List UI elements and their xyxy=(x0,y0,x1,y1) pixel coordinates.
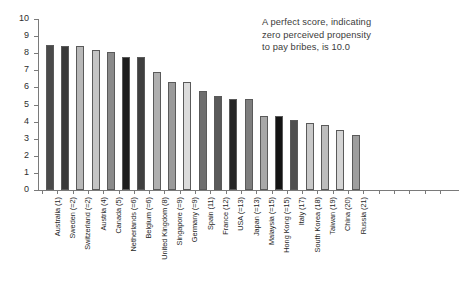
bar xyxy=(137,57,145,190)
y-tick: 4 xyxy=(34,122,38,123)
x-category-label: Canada (5) xyxy=(114,197,123,233)
x-tick xyxy=(317,190,318,194)
x-tick xyxy=(164,190,165,194)
bar xyxy=(183,82,191,190)
bribe-payers-index-chart: A perfect score, indicating zero perceiv… xyxy=(0,0,472,291)
x-category-label: Malaysia (=15) xyxy=(267,197,276,245)
y-tick-label: 3 xyxy=(24,133,29,143)
x-category-label: Austria (4) xyxy=(99,197,108,231)
y-tick-label: 9 xyxy=(24,30,29,40)
x-tick xyxy=(134,190,135,194)
x-category-label: South Korea (18) xyxy=(313,197,322,253)
x-tick xyxy=(440,190,441,194)
y-tick-label: 6 xyxy=(24,81,29,91)
x-category-label: Sweden (=2) xyxy=(68,197,77,239)
bar xyxy=(76,46,84,190)
y-tick-label: 7 xyxy=(24,64,29,74)
y-tick-label: 0 xyxy=(24,184,29,194)
bar xyxy=(153,72,161,190)
bar xyxy=(46,45,54,190)
x-tick xyxy=(180,190,181,194)
x-tick xyxy=(409,190,410,194)
x-axis-line xyxy=(38,190,459,191)
x-category-label: Netherlands (=6) xyxy=(129,197,138,251)
y-tick-label: 1 xyxy=(24,167,29,177)
bar xyxy=(214,96,222,190)
bar xyxy=(352,135,360,190)
y-axis-line xyxy=(38,19,39,190)
x-category-label: Italy (17) xyxy=(297,197,306,225)
bar xyxy=(199,91,207,190)
x-tick xyxy=(42,190,43,194)
x-tick xyxy=(379,190,380,194)
x-category-label: Japan (=13) xyxy=(252,197,261,236)
x-category-label: Belgium (=6) xyxy=(144,197,153,239)
x-tick xyxy=(363,190,364,194)
bar xyxy=(92,50,100,190)
x-tick xyxy=(119,190,120,194)
x-tick xyxy=(256,190,257,194)
x-tick xyxy=(287,190,288,194)
x-category-label: Taiwan (19) xyxy=(328,197,337,235)
x-category-label: Russia (21) xyxy=(359,197,368,234)
x-tick xyxy=(333,190,334,194)
y-tick-label: 8 xyxy=(24,47,29,57)
x-tick xyxy=(302,190,303,194)
bar xyxy=(229,99,237,190)
plot-area: 012345678910 Australia (1)Sweden (=2)Swi… xyxy=(38,19,462,190)
x-tick xyxy=(103,190,104,194)
x-tick xyxy=(57,190,58,194)
x-tick xyxy=(394,190,395,194)
y-tick: 5 xyxy=(34,105,38,106)
x-category-label: Switzerland (=2) xyxy=(83,197,92,250)
x-tick xyxy=(73,190,74,194)
bar xyxy=(336,130,344,190)
x-tick xyxy=(226,190,227,194)
y-tick: 8 xyxy=(34,53,38,54)
x-tick xyxy=(195,190,196,194)
bar xyxy=(306,123,314,190)
bar xyxy=(260,116,268,190)
x-tick xyxy=(241,190,242,194)
y-tick: 9 xyxy=(34,36,38,37)
x-category-label: United Kingdom (8) xyxy=(160,197,169,260)
x-tick xyxy=(348,190,349,194)
x-tick xyxy=(88,190,89,194)
y-tick-label: 5 xyxy=(24,99,29,109)
bar xyxy=(168,82,176,190)
bar xyxy=(245,99,253,190)
y-tick: 1 xyxy=(34,173,38,174)
bar xyxy=(107,52,115,191)
bar xyxy=(122,57,130,190)
x-tick xyxy=(149,190,150,194)
x-category-label: USA (=13) xyxy=(236,197,245,231)
y-tick: 2 xyxy=(34,156,38,157)
x-category-label: Singapore (=9) xyxy=(175,197,184,245)
y-tick: 7 xyxy=(34,70,38,71)
x-category-label: France (12) xyxy=(221,197,230,235)
x-category-label: Australia (1) xyxy=(53,197,62,236)
bar xyxy=(61,46,69,190)
x-tick xyxy=(210,190,211,194)
y-tick: 0 xyxy=(34,190,38,191)
y-tick: 3 xyxy=(34,139,38,140)
bar xyxy=(290,120,298,190)
x-tick xyxy=(272,190,273,194)
y-tick: 10 xyxy=(34,19,38,20)
y-tick-label: 2 xyxy=(24,150,29,160)
x-category-label: Spain (11) xyxy=(206,197,215,230)
x-category-label: China (20) xyxy=(343,197,352,231)
x-category-label: Hong Kong (=15) xyxy=(282,197,291,253)
x-category-label: Germany (=9) xyxy=(190,197,199,242)
y-tick-label: 10 xyxy=(19,13,29,23)
x-tick xyxy=(425,190,426,194)
bar xyxy=(275,116,283,190)
bar xyxy=(321,125,329,190)
y-tick-label: 4 xyxy=(24,116,29,126)
y-tick: 6 xyxy=(34,87,38,88)
